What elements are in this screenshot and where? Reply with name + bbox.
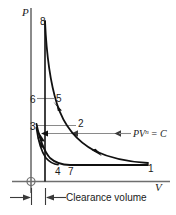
curve-equation-label: PVn= C <box>132 128 167 140</box>
state-point-3: 3 <box>30 121 36 132</box>
pv-diagram-canvas: P V 8 6 5 3 <box>0 0 176 215</box>
x-axis-label: V <box>155 181 163 193</box>
state-point-8: 8 <box>40 16 46 27</box>
state-point-5: 5 <box>56 93 62 104</box>
curve-compression-3-to-7 <box>37 124 149 165</box>
dim-arrow-right-pointing <box>23 194 31 200</box>
clearance-volume-label: Clearance volume <box>66 192 147 203</box>
equation-tail: = C <box>151 128 167 139</box>
y-axis-label: P <box>21 6 29 18</box>
curve-expansion-8-to-1 <box>45 21 148 163</box>
pv-diagram-figure: P V 8 6 5 3 <box>0 0 176 215</box>
svg-text:PVn= C: PVn= C <box>132 128 167 140</box>
state-point-2: 2 <box>78 118 84 129</box>
state-point-4: 4 <box>55 166 61 177</box>
state-point-1: 1 <box>148 163 154 174</box>
equation-exponent: n <box>145 128 149 136</box>
state-point-6: 6 <box>30 94 36 105</box>
dim-arrow-left-pointing <box>46 194 54 200</box>
state-point-7: 7 <box>68 166 74 177</box>
